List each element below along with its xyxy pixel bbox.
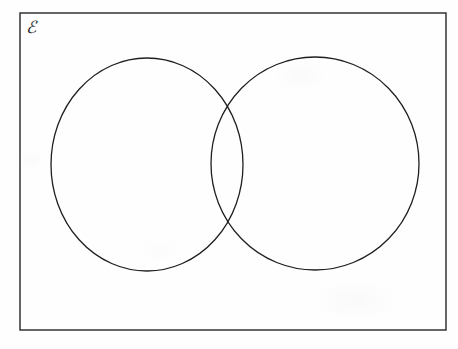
venn-diagram-canvas — [0, 0, 458, 349]
set-circle-right[interactable] — [211, 57, 419, 270]
venn-diagram-page: ℰ — [0, 0, 458, 349]
universal-set-label: ℰ — [26, 19, 36, 36]
set-circle-left[interactable] — [51, 58, 243, 271]
universal-set-rectangle[interactable] — [20, 13, 446, 330]
